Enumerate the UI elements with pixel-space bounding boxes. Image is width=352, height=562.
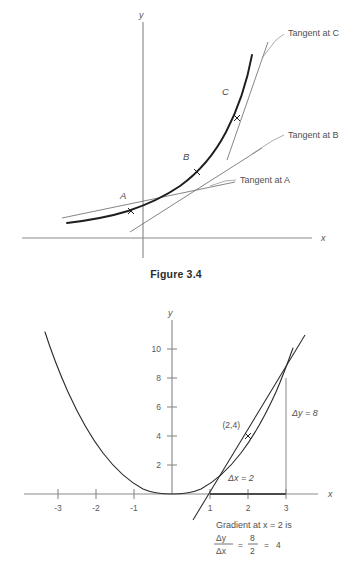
x-tick-label-1: 1 bbox=[208, 503, 213, 513]
delta-x-label: Δx = 2 bbox=[227, 473, 254, 483]
bottom-chart: x y -3 -2 -1 1 2 3 bbox=[0, 296, 352, 562]
point-label-2-4: (2,4) bbox=[223, 420, 241, 430]
formula-num-right: 8 bbox=[250, 533, 255, 543]
figure-caption: Figure 3.4 bbox=[0, 268, 352, 280]
bottom-y-axis-label: y bbox=[167, 308, 173, 318]
gradient-note: Gradient at x = 2 is bbox=[216, 520, 292, 530]
formula-den-right: 2 bbox=[250, 546, 255, 556]
tangent-line-b bbox=[130, 148, 262, 232]
point-marker-b bbox=[194, 169, 200, 175]
tangent-c-leader bbox=[262, 34, 284, 58]
x-tick-label--1: -1 bbox=[130, 503, 138, 513]
parabola-curve bbox=[45, 332, 293, 494]
top-x-axis-label: x bbox=[320, 233, 326, 243]
tangent-b-annotation: Tangent at B bbox=[288, 130, 339, 140]
x-tick-label--3: -3 bbox=[54, 503, 62, 513]
formula-result: 4 bbox=[276, 540, 281, 550]
formula-num-left: Δy bbox=[216, 533, 227, 543]
top-exponential-curve bbox=[67, 55, 252, 223]
point-label-c: C bbox=[222, 86, 229, 97]
y-tick-label-2: 2 bbox=[156, 460, 161, 470]
top-y-axis-label: y bbox=[138, 10, 144, 20]
formula-den-left: Δx bbox=[216, 546, 227, 556]
tangent-a-annotation: Tangent at A bbox=[240, 175, 290, 185]
point-marker-2-4 bbox=[245, 433, 251, 439]
bottom-x-axis-label: x bbox=[327, 489, 333, 499]
delta-y-label: Δy = 8 bbox=[291, 408, 318, 418]
top-chart-svg: x y Tangent at A Tangent at B Tangent at… bbox=[0, 0, 352, 262]
point-label-b: B bbox=[183, 151, 190, 162]
point-marker-c bbox=[234, 115, 240, 121]
x-tick-label--2: -2 bbox=[92, 503, 100, 513]
tangent-b-leader bbox=[252, 135, 284, 154]
formula-equals-1: = bbox=[238, 540, 243, 550]
top-chart: x y Tangent at A Tangent at B Tangent at… bbox=[0, 0, 352, 262]
y-tick-label-6: 6 bbox=[156, 402, 161, 412]
y-tick-label-8: 8 bbox=[156, 373, 161, 383]
y-tick-label-10: 10 bbox=[152, 344, 162, 354]
y-tick-label-4: 4 bbox=[156, 431, 161, 441]
formula-equals-2: = bbox=[264, 540, 269, 550]
tangent-line-at-2 bbox=[193, 335, 305, 520]
tangent-line-c bbox=[227, 42, 268, 160]
point-label-a: A bbox=[119, 190, 126, 201]
gradient-formula: Δy Δx = 8 2 = 4 bbox=[214, 533, 281, 556]
tangent-line-a bbox=[62, 182, 235, 218]
x-tick-label-3: 3 bbox=[284, 503, 289, 513]
x-tick-label-2: 2 bbox=[246, 503, 251, 513]
figure-page: x y Tangent at A Tangent at B Tangent at… bbox=[0, 0, 352, 562]
bottom-chart-svg: x y -3 -2 -1 1 2 3 bbox=[0, 296, 352, 562]
tangent-c-annotation: Tangent at C bbox=[288, 28, 340, 38]
